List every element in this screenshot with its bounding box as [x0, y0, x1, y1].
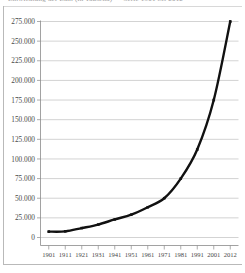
x-axis-tick-label: 1971	[158, 251, 171, 258]
data-point-marker	[212, 99, 215, 102]
x-axis-tick-label: 2012	[224, 251, 237, 258]
chart-title-cropped: Entwicklung der Zahl (in Tausend) — Seri…	[8, 0, 238, 5]
chart-canvas: 025.00050.00075.000100.000125.000150.000…	[0, 10, 245, 265]
x-axis-tick-label: 1911	[59, 251, 72, 258]
x-axis-labels: 1901191119211931194119511961197119811991…	[42, 251, 237, 258]
x-axis-tick-label: 1941	[108, 251, 121, 258]
y-axis-labels: 025.00050.00075.000100.000125.000150.000…	[11, 17, 35, 242]
x-axis-tick-label: 1961	[141, 251, 154, 258]
data-point-marker	[146, 206, 149, 209]
x-axis-tick-label: 1901	[42, 251, 55, 258]
frame-top-rule	[3, 6, 242, 7]
data-series-group	[49, 22, 231, 232]
y-axis-tick-label: 25.000	[15, 213, 35, 222]
data-point-marker	[47, 230, 50, 233]
y-axis-tick-label: 100.000	[11, 155, 35, 164]
x-axis-tick-label: 1921	[75, 251, 88, 258]
x-axis-tick-label: 1951	[125, 251, 138, 258]
x-axis-tick-label: 1991	[191, 251, 204, 258]
y-axis-tick-label: 50.000	[15, 194, 35, 203]
data-point-marker	[130, 213, 133, 216]
y-axis-tick-label: 175.000	[11, 96, 35, 105]
data-point-marker	[179, 177, 182, 180]
y-axis-tick-label: 225.000	[11, 56, 35, 65]
x-axis-tick-label: 2001	[207, 251, 220, 258]
y-axis-tick-label: 75.000	[15, 174, 35, 183]
data-point-marker	[113, 218, 116, 221]
y-axis-tick-label: 275.000	[11, 17, 35, 26]
gridline-group	[41, 22, 239, 238]
data-point-marker	[163, 197, 166, 200]
x-axis-tick-label: 1931	[92, 251, 105, 258]
data-point-marker	[80, 227, 83, 230]
y-axis-tick-label: 250.000	[11, 37, 35, 46]
y-tick-mark-group	[37, 22, 41, 238]
y-axis-tick-label: 200.000	[11, 76, 35, 85]
x-tick-mark-group	[49, 246, 231, 250]
x-axis-tick-label: 1981	[174, 251, 187, 258]
data-point-marker	[196, 148, 199, 151]
data-marker-group	[47, 20, 231, 233]
plot-area-wrapper: 025.00050.00075.000100.000125.000150.000…	[0, 10, 245, 265]
y-axis-tick-label: 125.000	[11, 135, 35, 144]
data-point-marker	[64, 230, 67, 233]
y-axis-tick-label: 0	[31, 233, 35, 242]
data-point-marker	[97, 223, 100, 226]
y-axis-tick-label: 150.000	[11, 115, 35, 124]
data-point-marker	[229, 20, 232, 23]
chart-figure: Entwicklung der Zahl (in Tausend) — Seri…	[0, 0, 245, 273]
chart-title-text: Entwicklung der Zahl (in Tausend) — Seri…	[8, 0, 238, 4]
series-line	[49, 22, 231, 232]
